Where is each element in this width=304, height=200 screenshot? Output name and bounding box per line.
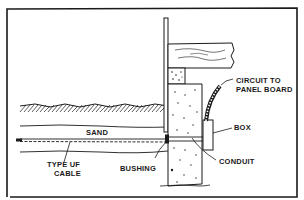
diagram-canvas: CIRCUIT TO PANEL BOARD BOX CONDUIT SAND … — [0, 0, 304, 200]
sill-block — [168, 68, 185, 84]
label-cable-line2: CABLE — [54, 169, 81, 178]
trench-bottom-line — [20, 151, 168, 153]
label-box: BOX — [234, 123, 251, 132]
label-cable-line1: TYPE UF — [47, 160, 80, 169]
ground-surface — [20, 104, 168, 112]
junction-box — [203, 120, 213, 150]
label-sand: SAND — [86, 128, 108, 137]
sand-top-line — [20, 125, 168, 127]
label-circuit-line2: PANEL BOARD — [236, 85, 293, 94]
floor-joist — [168, 43, 234, 68]
label-conduit: CONDUIT — [219, 157, 255, 166]
wall-sheathing — [164, 18, 168, 132]
label-circuit-line1: CIRCUIT TO — [236, 76, 281, 85]
circuit-cable — [206, 86, 220, 121]
label-bushing: BUSHING — [120, 164, 156, 173]
uf-cable — [16, 139, 168, 143]
